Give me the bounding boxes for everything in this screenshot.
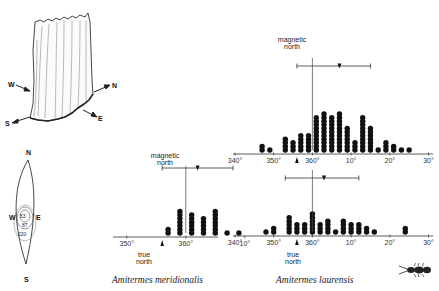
data-dot: [283, 136, 288, 141]
data-dot: [314, 115, 319, 120]
data-dot: [375, 147, 380, 152]
data-dot: [189, 212, 194, 217]
true-north-arrow-icon: [295, 239, 299, 245]
data-dot: [236, 230, 241, 235]
data-dot: [325, 218, 330, 223]
data-dot: [352, 140, 357, 145]
termite-icon: [397, 262, 433, 278]
data-dot: [290, 140, 295, 145]
data-dot: [333, 229, 338, 234]
data-dot: [383, 140, 388, 145]
data-dot: [348, 222, 353, 227]
data-dot: [364, 226, 369, 231]
tick-label: 30°: [423, 239, 434, 246]
tick-label: 360°: [179, 240, 194, 247]
data-dot: [302, 222, 307, 227]
data-dot: [165, 227, 170, 232]
data-dot: [356, 222, 361, 227]
data-dot: [271, 226, 276, 231]
data-dot: [368, 126, 373, 131]
tick-label: 20°: [385, 239, 396, 246]
tick-label: 350°: [266, 157, 281, 164]
data-dot: [306, 133, 311, 138]
chart-0: 350°360°10°: [113, 166, 250, 248]
data-dot: [391, 144, 396, 149]
magnetic-north-label-meridionalis: magnetic north: [145, 152, 185, 166]
magnetic-north-label-laurensis: magnetic north: [272, 36, 312, 50]
dot-histogram-charts: 350°360°10°340°350°360°10°20°30°340°350°…: [0, 0, 439, 291]
chart-2: 340°350°360°10°20°30°: [228, 170, 434, 246]
species-caption-meridionalis: Amitermes meridionalis: [112, 275, 203, 285]
species-caption-laurensis: Amitermes laurensis: [276, 275, 354, 285]
data-dot: [298, 133, 303, 138]
data-dot: [201, 216, 206, 221]
tick-label: 20°: [385, 157, 396, 164]
data-dot: [406, 147, 411, 152]
data-dot: [213, 209, 218, 214]
chart-1: 340°350°360°10°20°30°: [228, 58, 434, 164]
tick-label: 360°: [305, 239, 320, 246]
tick-label: 340°: [228, 157, 243, 164]
tick-label: 350°: [266, 239, 281, 246]
data-dot: [399, 147, 404, 152]
data-dot: [259, 144, 264, 149]
data-dot: [263, 229, 268, 234]
true-north-label-laurensis: true north: [281, 251, 305, 265]
data-dot: [372, 229, 377, 234]
data-dot: [177, 209, 182, 214]
data-dot: [341, 218, 346, 223]
true-north-label-meridionalis: true north: [132, 251, 156, 265]
data-dot: [360, 115, 365, 120]
tick-label: 340°: [228, 239, 243, 246]
tick-label: 350°: [120, 240, 135, 247]
true-north-arrow-icon: [295, 157, 299, 163]
data-dot: [321, 111, 326, 116]
true-north-arrow-icon: [160, 240, 164, 246]
data-dot: [294, 222, 299, 227]
tick-label: 360°: [305, 157, 320, 164]
data-dot: [317, 222, 322, 227]
data-dot: [329, 115, 334, 120]
data-dot: [403, 226, 408, 231]
data-dot: [224, 230, 229, 235]
tick-label: 30°: [423, 157, 434, 164]
data-dot: [267, 147, 272, 152]
tick-label: 10°: [346, 239, 357, 246]
data-dot: [337, 111, 342, 116]
tick-label: 10°: [346, 157, 357, 164]
data-dot: [345, 126, 350, 131]
data-dot: [286, 215, 291, 220]
